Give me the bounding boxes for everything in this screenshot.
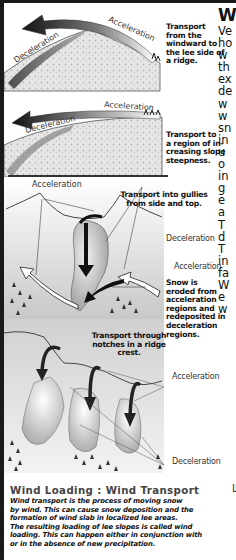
right-text-column: W VehowthexdewwsninuoingeaTdTinfaWew <box>218 3 236 433</box>
right-column-line: w <box>218 303 236 315</box>
gully-caption: Transport into gullies from side and top… <box>116 191 212 208</box>
acceleration-top-label: Acceleration <box>32 180 82 189</box>
right-column-line: T <box>218 219 236 231</box>
bottom-fade <box>4 473 164 479</box>
caption-line: or in the absence of new precipitation. <box>10 540 236 549</box>
wind-loading-caption: Wind Loading : Wind Transport Wind trans… <box>10 484 236 549</box>
ridge-caption: Transport from the windward to the lee s… <box>166 23 226 66</box>
caption-line: formation of wind slab in localized lee … <box>10 514 236 523</box>
deceleration-label: Deceleration <box>166 235 215 244</box>
caption-line: loading. This can happen either in conju… <box>10 531 236 540</box>
notch-caption: Transport through notches in a ridge cre… <box>88 332 170 358</box>
caption-body: Wind transport is the process of moving … <box>10 497 236 549</box>
slope-illustration: Acceleration Deceleration <box>4 95 164 177</box>
panel-ridge-lee: Acceleration Deceleration <box>4 3 164 95</box>
acceleration-right-label: Acceleration <box>174 263 221 272</box>
caption-line: by wind. This can cause snow deposition … <box>10 506 236 515</box>
acceleration-label: Acceleration <box>172 373 219 382</box>
wind-transport-illustration: Acceleration Deceleration Transport from… <box>4 3 164 478</box>
panel-slope-steepness: Acceleration Deceleration <box>4 95 164 177</box>
right-column-line: d <box>218 231 236 243</box>
right-column-line: a <box>218 206 236 218</box>
erosion-caption: Snow is eroded from acceleration regions… <box>166 279 226 339</box>
right-column-line: T <box>218 243 236 255</box>
slope-caption: Transport to a region of in- creasing sl… <box>166 131 226 165</box>
caption-line: Wind transport is the process of moving … <box>10 497 236 506</box>
right-column-lines: VehowthexdewwsninuoingeaTdTinfaWew <box>218 25 236 315</box>
right-column-line: w <box>218 110 236 122</box>
ridge-slope <box>4 29 160 91</box>
section-heading-partial: W <box>218 5 236 25</box>
right-column-line: de <box>218 85 236 97</box>
right-column-line: w <box>218 98 236 110</box>
ridge-illustration: Acceleration Deceleration <box>4 3 164 95</box>
snow-bowl-right <box>115 399 141 453</box>
deceleration-label: Deceleration <box>172 458 221 467</box>
caption-line: The resulting loading of lee slopes is c… <box>10 523 236 532</box>
caption-title: Wind Loading : Wind Transport <box>10 484 236 497</box>
